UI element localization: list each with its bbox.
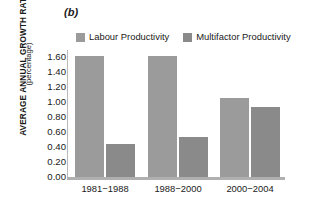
bar-labour-productivity: [75, 56, 104, 178]
legend-item: Multifactor Productivity: [183, 32, 290, 42]
x-axis-tick-label: 1981−1988: [70, 183, 140, 194]
legend-label: Labour Productivity: [89, 32, 169, 42]
y-axis-tick-label: 0.80: [47, 112, 66, 122]
legend-item: Labour Productivity: [76, 32, 169, 42]
bar-multifactor-productivity: [179, 137, 208, 178]
x-axis-tick-label: 2000−2004: [215, 183, 285, 194]
x-axis-tick-labels: 1981−19881988−20002000−2004: [67, 183, 285, 197]
chart-legend: Labour ProductivityMultifactor Productiv…: [76, 32, 291, 42]
bar-labour-productivity: [220, 98, 249, 177]
legend-label: Multifactor Productivity: [196, 32, 290, 42]
y-axis-tick-label: 1.00: [47, 97, 66, 107]
legend-swatch-icon: [76, 33, 85, 42]
figure-panel-b: (b) AVERAGE ANNUAL GROWTH RATE (percenta…: [0, 0, 313, 214]
bar-labour-productivity: [148, 56, 177, 178]
plot-area: [67, 50, 285, 178]
y-axis-line: [67, 50, 68, 178]
y-axis-tick-label: 1.20: [47, 82, 66, 92]
bar-group: [220, 50, 280, 177]
y-axis-tick-label: 1.60: [47, 52, 66, 62]
panel-label: (b): [64, 6, 78, 18]
x-axis-line: [67, 177, 285, 180]
y-axis-tick-label: 0.20: [47, 157, 66, 167]
y-axis-tick-label: 0.40: [47, 142, 66, 152]
bar-multifactor-productivity: [251, 107, 280, 177]
y-axis-tick-label: 1.40: [47, 67, 66, 77]
y-axis-tick-labels: 1.601.401.201.000.800.600.400.200.00: [30, 50, 66, 178]
bar-group: [75, 50, 135, 177]
y-axis-tick-label: 0.00: [47, 172, 66, 182]
bar-group: [148, 50, 208, 177]
bar-multifactor-productivity: [106, 144, 135, 177]
legend-swatch-icon: [183, 33, 192, 42]
x-axis-tick-label: 1988−2000: [143, 183, 213, 194]
y-axis-tick-label: 0.60: [47, 127, 66, 137]
